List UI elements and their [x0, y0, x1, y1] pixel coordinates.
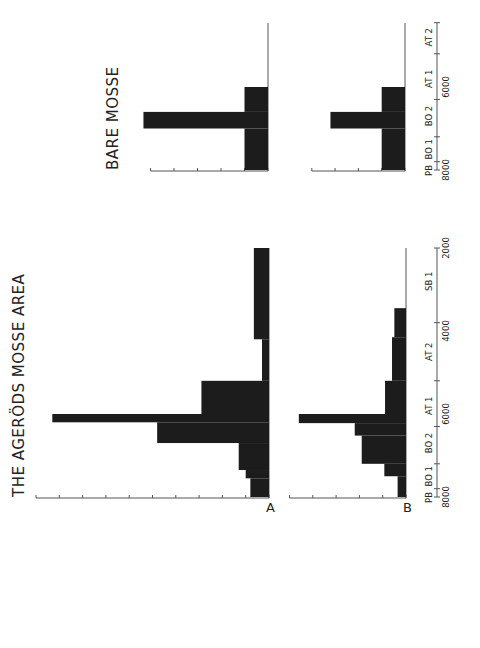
panel-label-b: B	[403, 500, 412, 515]
panel-b-bar	[392, 337, 406, 381]
panel-b-bar	[362, 436, 406, 464]
agerods-time-axis-period-label: AT 1	[424, 396, 434, 414]
agerods-time-axis-year-label: 6000	[441, 403, 451, 425]
panel-bare-upper-bar	[245, 87, 269, 112]
panel-b-bar	[299, 414, 406, 423]
panel-a-bar	[52, 414, 269, 422]
agerods-time-axis-period-label: AT 2	[424, 343, 434, 361]
panel-b-bar	[398, 476, 406, 497]
bare-time-axis-period-label: AT 2	[424, 28, 434, 46]
agerods-time-axis-period-label: BO 1	[424, 466, 434, 486]
panel-bare-upper-bar	[245, 129, 269, 171]
panel-a-bar	[246, 470, 269, 478]
panel-a-bar	[250, 478, 269, 497]
agerods-time-axis-period-label: SB 1	[424, 272, 434, 291]
panel-bare-lower-bar	[330, 112, 405, 129]
panel-b-bar	[385, 381, 406, 414]
panel-b-bar	[355, 423, 406, 435]
agerods-time-axis-year-label: 2000	[441, 237, 451, 259]
bare-time-axis-period-label: BO 1	[424, 139, 434, 159]
figure: THE AGERÖDS MOSSE AREA BARE MOSSE A B PB…	[0, 0, 480, 648]
panel-a-bar	[239, 443, 269, 470]
panel-bare-upper-bar	[143, 112, 268, 129]
bare-time-axis-period-label: AT 1	[424, 69, 434, 87]
agerods-time-axis-period-label: PB	[424, 492, 434, 503]
bare-time-axis-year-label: 8000	[441, 159, 451, 181]
agerods-time-axis-period-label: BO 2	[424, 433, 434, 453]
bare-time-axis-year-label: 6000	[441, 76, 451, 98]
panel-label-a: A	[266, 500, 275, 515]
title-bare-mosse: BARE MOSSE	[104, 67, 122, 171]
bare-time-axis-period-label: BO 2	[424, 106, 434, 126]
plot-area: PBBO 1BO 2AT 1AT 2SB 18000600040002000PB…	[36, 23, 451, 508]
histogram-figure: THE AGERÖDS MOSSE AREA BARE MOSSE A B PB…	[0, 0, 480, 648]
panel-a-bar	[254, 248, 269, 339]
bare-time-axis-period-label: PB	[424, 165, 434, 176]
panel-a-bar	[201, 381, 269, 414]
panel-a-bar	[262, 339, 269, 381]
panel-a-bar	[157, 422, 269, 443]
panel-b-bar	[384, 464, 406, 476]
agerods-time-axis-year-label: 8000	[441, 486, 451, 508]
title-agerods: THE AGERÖDS MOSSE AREA	[9, 273, 28, 498]
panel-bare-lower-bar	[382, 129, 405, 171]
agerods-time-axis-year-label: 4000	[441, 320, 451, 342]
panel-b-bar	[394, 308, 406, 337]
panel-bare-lower-bar	[382, 87, 405, 112]
